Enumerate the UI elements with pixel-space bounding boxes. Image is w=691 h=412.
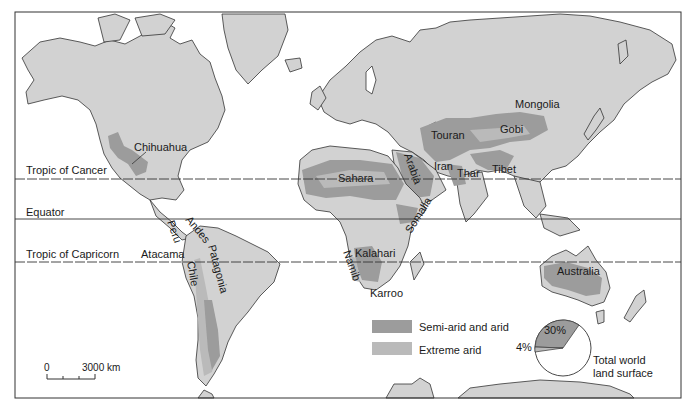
australia-region [540,246,646,324]
label-karroo: Karroo [370,287,403,299]
legend-swatch-semi-arid [372,320,412,333]
land-surface-pie-chart: 30% 4% Total world land surface [516,320,653,379]
antarctic-peninsula [198,390,214,398]
legend-label-semi-arid: Semi-arid and arid [419,321,509,333]
label-thar: Thar [457,167,480,179]
equator-label: Equator [26,206,65,218]
label-kalahari: Kalahari [355,247,395,259]
label-peru: Peru [165,219,184,245]
south-america [182,226,280,386]
antarctica [386,378,634,398]
legend-swatch-extreme-arid [372,342,412,355]
legend-label-extreme-arid: Extreme arid [419,344,481,356]
pie-caption-line2: land surface [593,367,653,379]
label-chihuahua: Chihuahua [134,141,188,153]
pie-label-extreme-arid: 4% [516,341,532,353]
label-touran: Touran [431,129,465,141]
label-mongolia: Mongolia [515,98,561,110]
pie-label-semi-arid: 30% [544,324,566,336]
tropic-of-cancer-label: Tropic of Cancer [26,164,107,176]
label-tibet: Tibet [492,163,516,175]
scale-end-label: 3000 km [82,362,120,373]
label-gobi: Gobi [500,123,523,135]
label-australia: Australia [557,265,601,277]
scale-bar: 0 3000 km [44,362,120,379]
pie-caption-line1: Total world [593,354,646,366]
label-atacama: Atacama [141,248,185,260]
tropic-of-capricorn-label: Tropic of Capricorn [26,248,119,260]
legend: Semi-arid and arid Extreme arid [372,320,509,356]
label-sahara: Sahara [338,172,374,184]
world-arid-lands-map: Tropic of Cancer Equator Tropic of Capri… [0,0,691,412]
scale-start-label: 0 [44,362,50,373]
label-iran: Iran [434,160,453,172]
